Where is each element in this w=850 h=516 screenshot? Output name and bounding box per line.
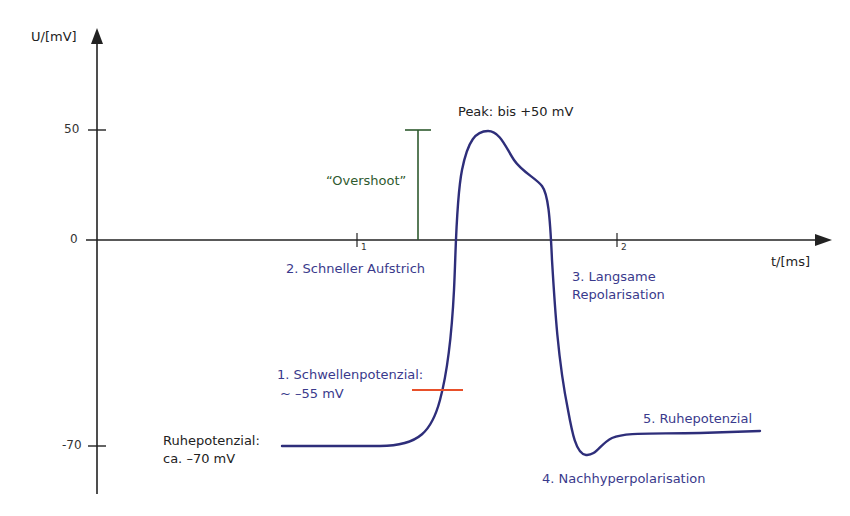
y-tick-label-50: 50 xyxy=(64,122,79,136)
y-axis-label: U/[mV] xyxy=(31,29,77,45)
rest-label-line2: ca. –70 mV xyxy=(163,451,235,467)
phase3-label-line1: 3. Langsame xyxy=(572,269,656,285)
x-tick-label-2: 2 xyxy=(621,242,627,253)
phase1-label-line1: 1. Schwellenpotenzial: xyxy=(277,367,423,383)
phase3-label-line2: Repolarisation xyxy=(572,287,665,303)
x-axis-label: t/[ms] xyxy=(771,254,810,270)
x-axis-arrow-icon xyxy=(815,234,832,246)
diagram-canvas xyxy=(0,0,850,516)
y-axis-arrow-icon xyxy=(91,28,103,44)
x-tick-label-1: 1 xyxy=(361,242,367,253)
phase4-label: 4. Nachhyperpolarisation xyxy=(542,471,706,487)
peak-label: Peak: bis +50 mV xyxy=(458,104,573,120)
rest-label-line1: Ruhepotenzial: xyxy=(163,433,260,449)
overshoot-label: “Overshoot” xyxy=(326,173,406,189)
phase2-label: 2. Schneller Aufstrich xyxy=(286,261,425,277)
y-tick-label-minus70: -70 xyxy=(62,438,82,452)
action-potential-diagram: U/[mV] t/[ms] 50 0 -70 1 2 Peak: bis +50… xyxy=(0,0,850,516)
phase5-label: 5. Ruhepotenzial xyxy=(643,411,752,427)
phase1-label-line2: ~ –55 mV xyxy=(280,386,344,402)
y-tick-label-0: 0 xyxy=(70,232,78,246)
